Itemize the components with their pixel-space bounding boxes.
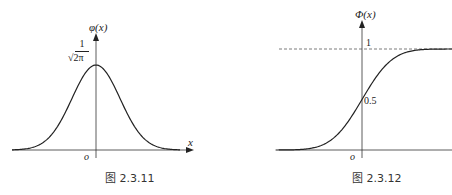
x-axis-label: x [188,136,193,148]
figure-caption: 图 2.3.12 [352,169,401,185]
peak-label-denominator: √2π [68,52,84,63]
origin-label: o [84,151,89,162]
peak-label-numerator: 1 [74,38,90,49]
figure-caption: 图 2.3.11 [105,169,154,185]
cdf-chart [276,20,452,158]
y-axis-arrow-icon [93,33,99,41]
density-chart [12,33,194,158]
tick-label-one: 1 [366,37,371,48]
y-axis-arrow-icon [359,20,365,28]
tick-label-half: 0.5 [364,95,377,106]
origin-label: o [350,151,355,162]
y-axis-label: φ(x) [89,21,107,33]
y-axis-label: Φ(x) [355,8,376,20]
charts-canvas [0,0,452,195]
